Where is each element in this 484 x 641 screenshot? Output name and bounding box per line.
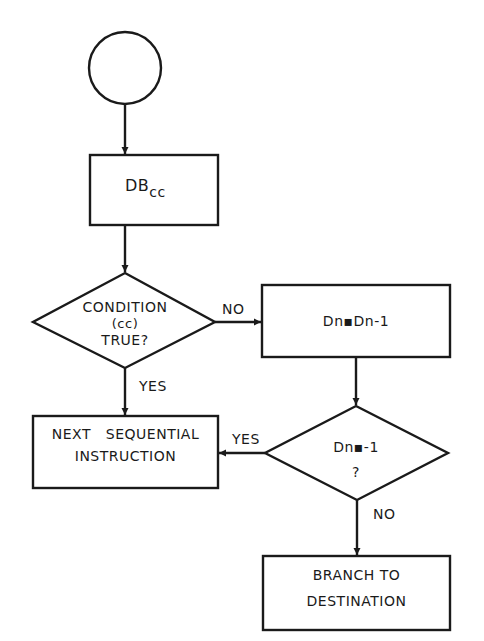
condition-line2: (cc) xyxy=(55,317,195,330)
dbcc-label: DBcc xyxy=(125,178,205,199)
condition-no-label: NO xyxy=(222,302,245,316)
next-instruction-line1: NEXT SEQUENTIAL xyxy=(33,423,218,445)
condition-yes-label: YES xyxy=(139,379,167,393)
dbcc-main: DB xyxy=(125,176,149,195)
dbcc-sub: cc xyxy=(149,184,165,200)
decrement-label: Dn▪Dn-1 xyxy=(262,314,450,328)
next-instruction-line2: INSTRUCTION xyxy=(33,445,218,467)
test-yes-label: YES xyxy=(232,432,260,446)
branch-line2: DESTINATION xyxy=(263,590,450,612)
condition-line3: TRUE? xyxy=(55,333,195,347)
branch-line1: BRANCH TO xyxy=(263,564,450,586)
start-node xyxy=(89,32,161,104)
test-line1: Dn▪-1 xyxy=(300,440,412,454)
test-line2: ? xyxy=(300,465,412,479)
condition-line1: CONDITION xyxy=(55,300,195,314)
test-no-label: NO xyxy=(373,507,396,521)
